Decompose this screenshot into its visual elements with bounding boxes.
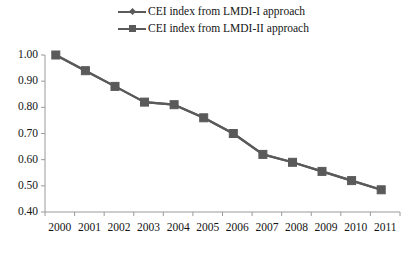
y-axis-tick-label: 0.50 xyxy=(4,179,38,191)
series-line-0 xyxy=(56,55,381,190)
y-axis-tick-label: 0.60 xyxy=(4,153,38,165)
plot-area: 1.000.900.800.700.600.500.40 20002001200… xyxy=(0,0,415,256)
y-axis-tick-label: 0.80 xyxy=(4,100,38,112)
y-axis-tick-label: 0.40 xyxy=(4,205,38,217)
y-axis-tick-label: 1.00 xyxy=(4,48,38,60)
y-axis-tick-label: 0.90 xyxy=(4,74,38,86)
y-axis-tick-label: 0.70 xyxy=(4,127,38,139)
series-line-1 xyxy=(56,55,381,190)
plot-svg xyxy=(0,0,415,256)
cei-index-line-chart: CEI index from LMDI-I approach CEI index… xyxy=(0,0,415,256)
series-layer xyxy=(52,51,385,194)
axes-layer xyxy=(41,55,400,216)
x-axis-tick-label: 2011 xyxy=(368,221,402,233)
